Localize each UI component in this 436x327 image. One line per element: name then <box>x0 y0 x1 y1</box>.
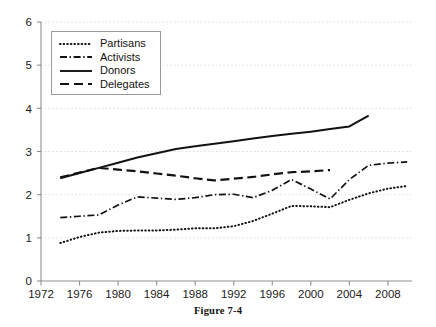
x-axis-ticks <box>41 281 388 286</box>
legend-item-activists: Activists <box>59 51 154 65</box>
legend-item-delegates: Delegates <box>59 78 154 92</box>
legend-item-partisans: Partisans <box>59 37 154 51</box>
x-axis-labels: 1972197619801984198819921996200020042008 <box>28 288 401 300</box>
series-line-delegates <box>60 168 330 181</box>
x-tick-label: 1996 <box>259 288 285 300</box>
figure-container: 0123456 19721976198019841988199219962000… <box>0 0 436 327</box>
x-tick-label: 2008 <box>375 288 401 300</box>
figure-caption: Figure 7-4 <box>0 305 436 316</box>
legend-item-donors: Donors <box>59 64 154 78</box>
x-tick-label: 1980 <box>105 288 131 300</box>
x-tick-label: 1984 <box>144 288 170 300</box>
x-tick-label: 1988 <box>182 288 208 300</box>
line-dashed-icon <box>59 78 93 90</box>
y-axis-ticks <box>37 22 41 281</box>
legend-label-delegates: Delegates <box>100 78 150 92</box>
y-tick-label: 2 <box>26 189 32 201</box>
line-dashdot-icon <box>59 51 93 63</box>
x-tick-label: 1972 <box>28 288 54 300</box>
series-line-activists <box>60 162 407 218</box>
line-dotted-icon <box>59 38 93 50</box>
y-tick-label: 3 <box>26 146 32 158</box>
legend-label-partisans: Partisans <box>100 37 146 51</box>
y-tick-label: 4 <box>26 103 33 115</box>
y-tick-label: 1 <box>26 232 32 244</box>
y-tick-label: 6 <box>26 16 32 28</box>
y-tick-label: 5 <box>26 59 32 71</box>
legend-label-donors: Donors <box>100 64 135 78</box>
data-series <box>60 116 407 243</box>
legend-label-activists: Activists <box>100 51 140 65</box>
x-tick-label: 2004 <box>337 288 363 300</box>
x-tick-label: 2000 <box>298 288 324 300</box>
y-tick-label: 0 <box>26 275 32 287</box>
line-solid-icon <box>59 65 93 77</box>
y-axis-labels: 0123456 <box>26 16 33 287</box>
x-tick-label: 1976 <box>67 288 93 300</box>
x-tick-label: 1992 <box>221 288 247 300</box>
chart-legend: Partisans Activists Donors <box>51 31 161 95</box>
